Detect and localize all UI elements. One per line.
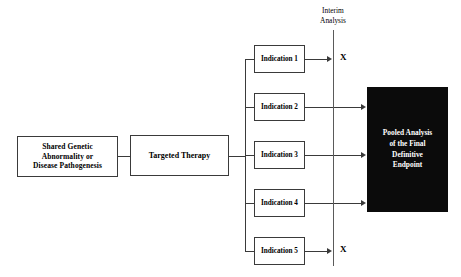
interim-analysis-label: Interim Analysis: [303, 6, 363, 26]
arrowhead-indication-5: [327, 248, 332, 254]
arrowhead-indication-2: [361, 104, 366, 110]
connector-trunk-to-indication-2: [245, 107, 254, 108]
node-indication-4-label: Indication 4: [261, 199, 298, 208]
interim-analysis-line: [333, 30, 334, 266]
node-indication-3-label: Indication 3: [261, 151, 298, 160]
node-pooled-line-2: of the Final: [389, 139, 425, 148]
node-indication-5-label: Indication 5: [261, 247, 298, 256]
connector-therapy-to-trunk: [229, 156, 246, 157]
arrowhead-indication-4: [361, 200, 366, 206]
interim-analysis-line-1: Interim: [322, 6, 344, 15]
diagram-canvas: Shared Genetic Abnormality or Disease Pa…: [0, 0, 461, 277]
stop-mark-indication-5: X: [340, 244, 347, 254]
node-pooled-line-1: Pooled Analysis: [383, 128, 433, 137]
connector-trunk-to-indication-3: [245, 155, 254, 156]
node-origin-line-1: Shared Genetic: [42, 142, 93, 151]
node-indication-2-label: Indication 2: [261, 103, 298, 112]
node-origin-line-2: Abnormality or: [42, 152, 94, 161]
node-indication-5: Indication 5: [254, 237, 305, 265]
node-indication-4: Indication 4: [254, 189, 305, 217]
arrowhead-indication-3: [361, 152, 366, 158]
interim-analysis-line-2: Analysis: [320, 16, 346, 25]
node-indication-3: Indication 3: [254, 141, 305, 169]
node-origin-label: Shared Genetic Abnormality or Disease Pa…: [33, 142, 102, 170]
stop-mark-indication-1: X: [340, 52, 347, 62]
node-targeted-therapy: Targeted Therapy: [130, 135, 229, 176]
node-indication-2: Indication 2: [254, 93, 305, 121]
node-therapy-label: Targeted Therapy: [149, 151, 211, 161]
arrow-indication-1-to-interim: [305, 59, 328, 60]
arrowhead-indication-1: [327, 56, 332, 62]
node-shared-genetic-abnormality: Shared Genetic Abnormality or Disease Pa…: [17, 136, 118, 177]
node-pooled-label: Pooled Analysis of the Final Definitive …: [383, 128, 433, 171]
node-pooled-line-4: Endpoint: [393, 160, 423, 169]
connector-trunk-to-indication-1: [245, 59, 254, 60]
connector-trunk-to-indication-5: [245, 251, 254, 252]
node-indication-1: Indication 1: [254, 45, 305, 73]
node-indication-1-label: Indication 1: [261, 55, 298, 64]
node-pooled-line-3: Definitive: [392, 150, 423, 159]
connector-trunk-to-indication-4: [245, 203, 254, 204]
arrow-indication-5-to-interim: [305, 251, 328, 252]
node-origin-line-3: Disease Pathogenesis: [33, 161, 102, 170]
connector-origin-to-therapy: [118, 156, 130, 157]
node-pooled-analysis: Pooled Analysis of the Final Definitive …: [367, 87, 448, 212]
